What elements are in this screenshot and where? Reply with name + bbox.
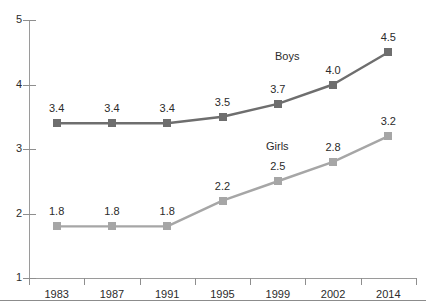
data-point-label: 3.4 — [92, 102, 132, 114]
data-point-marker — [163, 119, 171, 127]
data-point-marker — [329, 158, 337, 166]
data-point-label: 2.8 — [313, 141, 353, 153]
data-point-label: 4.0 — [313, 64, 353, 76]
data-point-marker — [384, 132, 392, 140]
plot-area: 54321 1983198719911995199920022014 3.43.… — [0, 0, 426, 308]
data-point-marker — [219, 197, 227, 205]
data-point-marker — [329, 81, 337, 89]
data-point-marker — [384, 48, 392, 56]
data-point-marker — [108, 222, 116, 230]
data-point-label: 1.8 — [37, 205, 77, 217]
series-label-boys: Boys — [275, 50, 299, 62]
data-point-label: 1.8 — [92, 205, 132, 217]
data-point-marker — [274, 100, 282, 108]
data-point-label: 3.7 — [258, 83, 298, 95]
data-point-marker — [274, 177, 282, 185]
data-point-marker — [53, 119, 61, 127]
data-point-label: 3.4 — [147, 102, 187, 114]
data-point-label: 3.2 — [368, 115, 408, 127]
data-point-label: 3.4 — [37, 102, 77, 114]
data-point-marker — [163, 222, 171, 230]
data-point-label: 2.5 — [258, 160, 298, 172]
data-point-label: 4.5 — [368, 31, 408, 43]
data-point-label: 1.8 — [147, 205, 187, 217]
series-lines — [0, 0, 426, 308]
data-point-label: 3.5 — [203, 96, 243, 108]
data-point-marker — [53, 222, 61, 230]
data-point-marker — [219, 113, 227, 121]
footer-rule — [0, 300, 426, 301]
line-chart: 54321 1983198719911995199920022014 3.43.… — [0, 0, 426, 308]
series-label-girls: Girls — [266, 140, 289, 152]
data-point-marker — [108, 119, 116, 127]
data-point-label: 2.2 — [203, 180, 243, 192]
